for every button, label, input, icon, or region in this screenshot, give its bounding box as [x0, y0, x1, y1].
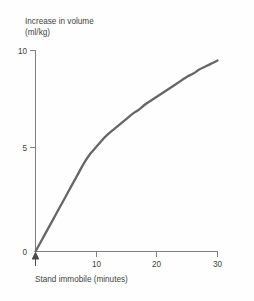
chart-figure: Increase in volume (ml/kg) 10 5 0 10 20 … — [0, 0, 254, 301]
data-curve — [36, 61, 218, 252]
y-tick-label-5: 5 — [22, 144, 27, 153]
x-tick-label-20: 20 — [152, 260, 162, 269]
origin-up-arrow-icon — [32, 253, 38, 267]
x-tick-label-30: 30 — [213, 260, 223, 269]
y-tick-label-0: 0 — [22, 248, 27, 257]
x-tick-label-10: 10 — [92, 260, 102, 269]
line-chart: Increase in volume (ml/kg) 10 5 0 10 20 … — [0, 0, 254, 301]
x-axis-title: Stand immobile (minutes) — [35, 275, 128, 284]
y-axis-title-line2: (ml/kg) — [25, 28, 50, 37]
y-tick-label-10: 10 — [18, 47, 28, 56]
y-axis-title-line1: Increase in volume — [25, 17, 94, 26]
